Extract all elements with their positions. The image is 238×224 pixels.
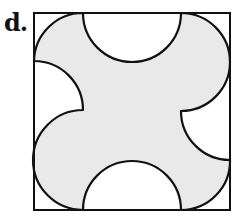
shaded-region: [33, 13, 230, 210]
geometry-figure: [0, 0, 238, 224]
